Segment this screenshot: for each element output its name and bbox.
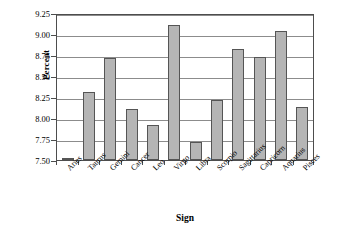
y-axis-tick-label: 8.00 — [22, 115, 50, 124]
bar — [275, 31, 287, 160]
bar — [104, 58, 116, 160]
y-axis-tick-label: 8.75 — [22, 52, 50, 61]
plot-area — [56, 14, 314, 161]
y-axis-tick-label: 7.50 — [22, 157, 50, 166]
bar-slot — [206, 15, 227, 160]
bar-slot — [100, 15, 121, 160]
y-axis-tick-label: 9.25 — [22, 10, 50, 18]
y-axis-tick-label: 8.50 — [22, 73, 50, 82]
bar-slot — [228, 15, 249, 160]
bar-slot — [185, 15, 206, 160]
bar — [211, 100, 223, 160]
bar-slot — [270, 15, 291, 160]
bar-slot — [249, 15, 270, 160]
x-axis-tick-labels: AriesTaurusGeminiCancerLeoVirgoLibraScor… — [56, 166, 314, 208]
bar-slot — [121, 15, 142, 160]
bar-chart-figure: Percent 7.507.758.008.258.508.759.009.25… — [0, 0, 339, 238]
x-axis-tick-mark — [56, 161, 57, 165]
x-axis-title: Sign — [56, 213, 314, 223]
bar-slot — [292, 15, 313, 160]
y-axis-tick-label: 7.75 — [22, 136, 50, 145]
bar — [232, 49, 244, 160]
bar — [190, 142, 202, 160]
y-axis-tick-labels: 7.507.758.008.258.508.759.009.25 — [22, 14, 50, 161]
bar — [83, 92, 95, 160]
bar — [168, 25, 180, 160]
y-axis-tick-label: 8.25 — [22, 94, 50, 103]
bar-slot — [142, 15, 163, 160]
bar-slot — [78, 15, 99, 160]
bar-slot — [164, 15, 185, 160]
bar-series — [57, 15, 313, 160]
bar-slot — [57, 15, 78, 160]
y-axis-tick-label: 9.00 — [22, 31, 50, 40]
